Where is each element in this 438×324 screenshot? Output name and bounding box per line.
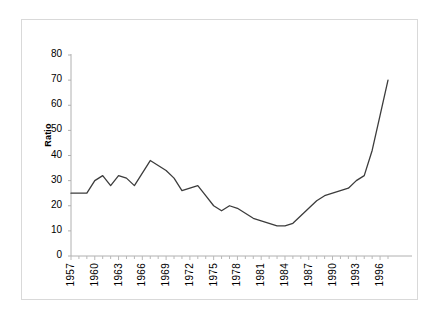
x-tick-label: 1987 [303,263,314,286]
x-tick-label: 1975 [208,263,219,286]
data-series-line [71,80,388,226]
x-tick-label: 1957 [65,263,76,286]
x-tick-label: 1981 [255,263,266,286]
x-tick-label: 1978 [231,263,242,286]
y-tick-label: 60 [38,98,62,109]
y-tick-label: 70 [38,73,62,84]
x-tick-label: 1966 [136,263,147,286]
y-tick-label: 80 [38,48,62,59]
x-tick-label: 1960 [89,263,100,286]
x-tick-label: 1969 [160,263,171,286]
y-tick-label: 30 [38,174,62,185]
x-tick-label: 1972 [184,263,195,286]
chart-figure: Ratio 0102030405060708019571960196319661… [21,19,418,300]
x-tick-label: 1993 [350,263,361,286]
y-tick-label: 10 [38,224,62,235]
x-tick-label: 1996 [374,263,385,286]
y-tick-label: 20 [38,199,62,210]
x-tick-label: 1984 [279,263,290,286]
y-tick-label: 50 [38,123,62,134]
x-tick-label: 1990 [327,263,338,286]
y-tick-label: 0 [38,249,62,260]
line-chart-plot [22,20,417,299]
y-tick-label: 40 [38,149,62,160]
x-tick-label: 1963 [113,263,124,286]
